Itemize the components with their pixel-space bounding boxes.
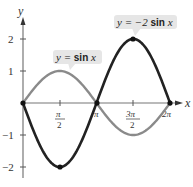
svg-text:2: 2	[130, 120, 135, 130]
y-axis-arrow-icon	[21, 17, 26, 25]
svg-text:y = −2 sin x: y = −2 sin x	[116, 16, 173, 28]
x-tick-3pi-over-2: 3π 2	[125, 109, 140, 130]
x-tick-pi-over-2: π 2	[55, 109, 65, 130]
x-axis-label: x	[184, 96, 191, 110]
svg-text:2: 2	[57, 120, 62, 130]
callout-neg2-sin-x: y = −2 sin x	[114, 15, 177, 36]
x-axis-arrow-icon	[175, 101, 183, 106]
chart: y x 2 1 −1 −2 π 2 π 3π 2 2π	[0, 0, 193, 187]
y-tick-neg1: −1	[2, 129, 14, 141]
plot-area: y x 2 1 −1 −2 π 2 π 3π 2 2π	[0, 0, 193, 187]
svg-text:π: π	[56, 109, 61, 119]
callout-sin-x: y = sin x	[53, 50, 102, 70]
svg-text:3π: 3π	[125, 109, 136, 119]
svg-text:y = sin x: y = sin x	[55, 51, 96, 63]
y-axis-label: y	[17, 4, 24, 18]
y-tick-neg2: −2	[2, 161, 14, 173]
y-tick-2: 2	[8, 33, 14, 45]
y-tick-1: 1	[8, 65, 14, 77]
